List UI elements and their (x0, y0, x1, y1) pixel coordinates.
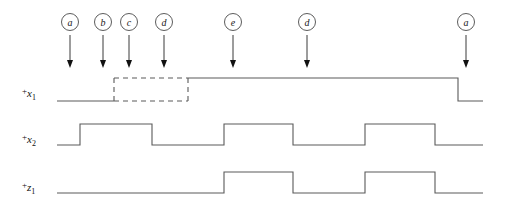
marker-group: abcdeda (62, 14, 475, 69)
marker-arrow-head-icon (230, 60, 236, 68)
time-marker-d: d (299, 14, 316, 69)
time-marker-c: c (121, 14, 138, 69)
signal-label: +z1 (22, 180, 35, 196)
time-marker-b: b (95, 14, 112, 69)
signal-row-+z1: +z1 (22, 172, 483, 196)
marker-arrow-head-icon (463, 60, 469, 68)
marker-arrow-head-icon (161, 60, 167, 68)
signal-label: +x2 (22, 132, 36, 148)
signal-row-+x2: +x2 (22, 124, 483, 148)
timing-diagram-canvas: abcdeda +x1+x2+z1 (0, 0, 507, 214)
waveform-solid-path (57, 172, 483, 193)
marker-label: a (68, 17, 73, 28)
time-marker-d: d (156, 14, 173, 69)
signal-group: +x1+x2+z1 (22, 78, 483, 196)
time-marker-e: e (225, 14, 242, 69)
marker-arrow-head-icon (304, 60, 310, 68)
marker-label: a (464, 17, 469, 28)
marker-label: e (231, 17, 236, 28)
marker-arrow-head-icon (126, 60, 132, 68)
time-marker-a: a (458, 14, 475, 69)
waveform-solid-path (57, 124, 483, 145)
marker-arrow-head-icon (67, 60, 73, 68)
time-marker-a: a (62, 14, 79, 69)
timing-diagram: abcdeda +x1+x2+z1 (0, 0, 507, 214)
marker-arrow-head-icon (100, 60, 106, 68)
signal-label: +x1 (22, 86, 36, 102)
signal-row-+x1: +x1 (22, 78, 483, 102)
marker-label: c (127, 17, 132, 28)
waveform-solid-path (57, 78, 483, 101)
waveform-dont-care-box (114, 78, 188, 101)
marker-label: b (101, 17, 106, 28)
